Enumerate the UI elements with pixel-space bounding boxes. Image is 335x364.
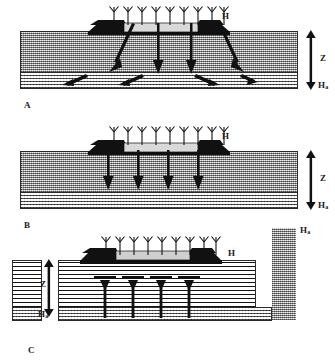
panel-c-column-label: Ha bbox=[300, 226, 310, 235]
panel-c-surface-label: H bbox=[228, 249, 235, 258]
panel-c-right-column bbox=[272, 228, 296, 320]
panel-c-bottom-label-sub: a bbox=[45, 313, 48, 319]
panel-a-depth-label: Z bbox=[320, 54, 326, 63]
panel-a-lateral-arrows bbox=[54, 72, 254, 90]
panel-a-surface-label: H bbox=[222, 12, 229, 21]
panel-b-rain-arrows bbox=[112, 125, 228, 147]
panel-b: H Z Ha B bbox=[0, 120, 335, 240]
panel-c-id-label: C bbox=[28, 345, 35, 355]
panel-c-left-column-layers bbox=[12, 260, 42, 308]
panel-a-bottom-label-sub: a bbox=[325, 84, 328, 90]
panel-a-bottom-label: Ha bbox=[318, 81, 328, 90]
panel-c-depth-label: Z bbox=[40, 280, 46, 289]
panel-b-depth-label: Z bbox=[320, 174, 326, 183]
panel-a-depth-arrow bbox=[306, 30, 316, 90]
panel-a: H Z Ha A bbox=[0, 0, 335, 120]
figure-root: H Z Ha A bbox=[0, 0, 335, 364]
panel-c-column-label-sub: a bbox=[307, 229, 310, 235]
panel-b-depth-arrow bbox=[306, 150, 316, 210]
panel-c-bottom-label: Ha bbox=[38, 310, 48, 319]
panel-a-id-label: A bbox=[24, 100, 31, 110]
panel-b-bottom-label: Ha bbox=[318, 201, 328, 210]
panel-c-flow-arrows bbox=[100, 276, 220, 320]
panel-b-flow-arrows bbox=[104, 150, 234, 196]
panel-c-rain-arrows bbox=[104, 235, 220, 257]
panel-b-id-label: B bbox=[24, 220, 30, 230]
panel-b-surface-label: H bbox=[222, 132, 229, 141]
panel-c: H Z Ha Ha C bbox=[0, 240, 335, 364]
panel-b-bottom-label-sub: a bbox=[325, 204, 328, 210]
